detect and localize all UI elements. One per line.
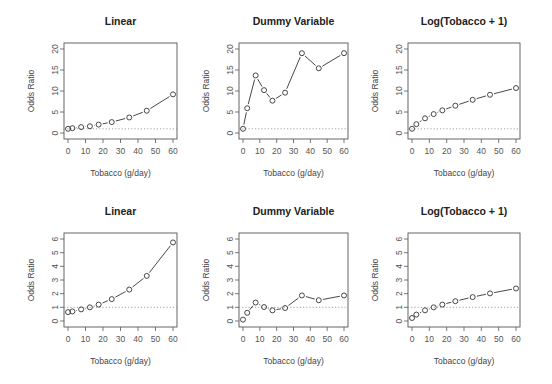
panel-title: Log(Tobacco + 1) [421,205,507,217]
x-tick-label: 10 [255,146,265,156]
data-point-marker [87,124,92,129]
x-tick-label: 40 [133,146,143,156]
x-tick-label: 20 [98,146,108,156]
y-axis-label: Odds Ratio [26,258,36,301]
data-point-marker [270,308,275,313]
x-tick-label: 60 [339,146,349,156]
series-segment [267,93,270,97]
panel-log-top: Log(Tobacco + 1)010203040506005101520Tob… [370,15,521,178]
data-point-marker [245,310,250,315]
x-tick-label: 20 [272,146,282,156]
series-segment [322,55,340,66]
panel-linear-bottom: Linear01020304050600123456Tobacco (g/day… [26,205,178,366]
y-tick-label: 5 [225,250,235,255]
data-point-marker [96,122,101,127]
x-tick-label: 40 [477,334,487,344]
y-tick-label: 0 [50,318,60,323]
y-tick-label: 15 [50,65,60,75]
data-point-marker [440,108,445,113]
x-tick-label: 20 [98,334,108,344]
x-tick-label: 30 [459,334,469,344]
x-tick-label: 30 [289,334,299,344]
x-tick-label: 60 [511,146,521,156]
data-point-marker [245,106,250,111]
series-segment [429,116,430,117]
x-axis-label: Tobacco (g/day) [263,356,324,366]
data-point-marker [453,103,458,108]
x-tick-label: 50 [151,146,161,156]
series-segment [149,246,170,273]
plot-frame [239,233,348,327]
series-segment [115,292,125,298]
data-point-marker [283,90,288,95]
x-tick-label: 0 [241,334,246,344]
y-tick-label: 3 [394,277,404,282]
data-point-marker [488,92,493,97]
data-point-marker [262,88,267,93]
data-point-marker [316,298,321,303]
panel-title: Linear [105,205,137,217]
plot-frame [239,43,348,139]
x-tick-label: 20 [442,146,452,156]
x-tick-label: 30 [459,146,469,156]
data-point-marker [253,73,258,78]
x-tick-label: 60 [168,334,178,344]
panel-dummy-bottom: Dummy Variable01020304050600123456Tobacc… [201,205,349,366]
x-axis-label: Tobacco (g/day) [90,356,151,366]
x-tick-label: 50 [322,146,332,156]
y-axis-label: Odds Ratio [370,69,380,112]
x-tick-label: 10 [81,334,91,344]
data-point-marker [109,297,114,302]
data-point-marker [423,308,428,313]
y-tick-label: 0 [225,318,235,323]
y-tick-label: 5 [50,109,60,114]
data-point-marker [414,122,419,127]
x-tick-label: 50 [322,334,332,344]
data-point-marker [109,120,114,125]
x-tick-label: 40 [306,146,316,156]
series-segment [287,57,301,89]
x-tick-label: 20 [442,334,452,344]
data-point-marker [342,51,347,56]
series-segment [288,298,298,306]
series-segment [133,112,143,116]
series-segment [446,302,451,303]
data-point-marker [488,291,493,296]
panel-log-bottom: Log(Tobacco + 1)01020304050600123456Toba… [370,205,521,366]
y-tick-label: 20 [225,44,235,54]
data-point-marker [171,92,176,97]
y-tick-label: 15 [225,65,235,75]
data-point-marker [342,293,347,298]
x-tick-label: 0 [410,146,415,156]
series-segment [305,56,316,66]
x-tick-label: 10 [425,334,435,344]
x-tick-label: 50 [151,334,161,344]
series-segment [494,289,512,292]
series-segment [459,101,468,104]
series-segment [103,123,108,124]
y-tick-label: 5 [50,250,60,255]
x-tick-label: 10 [81,146,91,156]
y-axis-label: Odds Ratio [26,69,36,112]
x-tick-label: 0 [66,334,71,344]
y-tick-label: 1 [50,305,60,310]
y-tick-label: 0 [394,130,404,135]
y-tick-label: 5 [225,109,235,114]
data-point-marker [453,299,458,304]
x-tick-label: 30 [289,146,299,156]
series-segment [277,309,281,310]
y-tick-label: 6 [394,236,404,241]
data-point-marker [470,295,475,300]
plot-frame [64,233,177,327]
y-tick-label: 20 [394,44,404,54]
y-axis-label: Odds Ratio [370,258,380,301]
data-point-marker [270,98,275,103]
data-point-marker [410,315,415,320]
series-segment [323,296,340,299]
data-point-marker [283,306,288,311]
data-point-marker [144,273,149,278]
series-segment [420,312,421,313]
x-tick-label: 0 [410,334,415,344]
panel-title: Log(Tobacco + 1) [421,15,507,27]
x-tick-label: 0 [66,146,71,156]
